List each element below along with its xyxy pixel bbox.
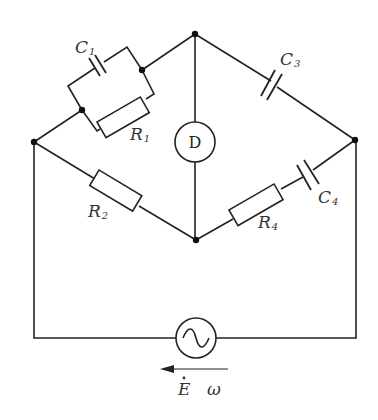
label-c3: C3 [280, 49, 300, 69]
wire-r2-to-bottom [139, 206, 196, 240]
wire-r1-right [142, 70, 154, 99]
label-omega: ω [207, 379, 221, 399]
wire-r1-left [82, 110, 100, 131]
label-r2: R2 [87, 201, 108, 221]
arrow-left-icon [160, 365, 174, 373]
wire-source-to-right [216, 140, 356, 338]
label-c1: C1 [75, 37, 95, 57]
circuit-svg: D C1 R1 C3 R2 R4 C4 E ω [0, 0, 378, 420]
label-c4: C4 [318, 187, 338, 207]
emf-dot [183, 377, 186, 380]
wire-left-to-c1r1 [34, 110, 82, 142]
wire-c4-to-right [313, 140, 355, 170]
wire-c3-to-right [277, 87, 355, 140]
wire-left-to-r2 [34, 142, 95, 179]
wire-bottom-to-r4 [196, 219, 233, 240]
wire-c1r1-to-top [142, 34, 195, 70]
bridge-circuit-diagram: D C1 R1 C3 R2 R4 C4 E ω [0, 0, 378, 420]
wire-r4-to-c4 [281, 177, 303, 189]
label-emf: E [177, 379, 191, 399]
capacitor-c4 [297, 160, 319, 190]
wire-left-to-source [34, 142, 176, 338]
wire-c1-left [68, 68, 95, 110]
resistor-r4 [229, 184, 283, 226]
label-r4: R4 [257, 212, 278, 232]
label-r1: R1 [129, 124, 150, 144]
wire-top-to-c3 [195, 34, 271, 81]
detector-label: D [189, 133, 202, 152]
wire-c1-right [104, 47, 142, 70]
capacitor-c1 [89, 55, 106, 76]
capacitor-c3 [261, 70, 282, 100]
